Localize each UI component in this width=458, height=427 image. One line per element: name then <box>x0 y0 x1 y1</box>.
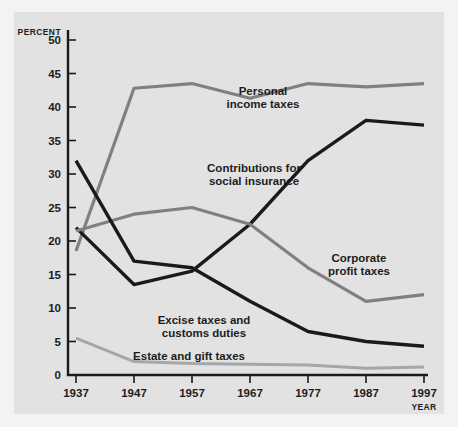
x-tick-label-1967: 1967 <box>237 387 263 399</box>
y-tick-label-30: 30 <box>48 168 61 180</box>
y-tick-label-20: 20 <box>48 235 61 247</box>
personal-income-taxes-label-line1: Personal <box>239 85 288 97</box>
x-tick-labels: 1937 1947 1957 1967 1977 1987 1997 <box>63 387 437 399</box>
y-tick-label-45: 45 <box>48 68 61 80</box>
x-tick-label-1937: 1937 <box>63 387 89 399</box>
y-tick-labels: 50 45 40 35 30 25 20 15 10 5 0 <box>48 34 61 381</box>
contributions-social-insurance-label-line1: Contributions for <box>207 162 301 174</box>
y-tick-label-50: 50 <box>48 34 61 46</box>
corporate-profit-taxes-label-line2: profit taxes <box>328 265 390 277</box>
estate-gift-label-line1: Estate and gift taxes <box>133 350 245 362</box>
x-tick-label-1977: 1977 <box>295 387 321 399</box>
excise-customs-label-line2: customs duties <box>162 327 246 339</box>
series-annotations: Personal income taxes Contributions for … <box>133 85 390 362</box>
y-tick-label-0: 0 <box>55 369 61 381</box>
contributions-social-insurance-label-line2: social insurance <box>209 175 299 187</box>
y-tick-label-5: 5 <box>55 336 62 348</box>
corporate-profit-taxes-label-line1: Corporate <box>332 252 387 264</box>
y-tick-label-15: 15 <box>48 269 61 281</box>
personal-income-taxes-label-line2: income taxes <box>227 98 300 110</box>
x-tick-label-1987: 1987 <box>353 387 379 399</box>
y-tick-label-25: 25 <box>48 202 61 214</box>
x-tick-label-1947: 1947 <box>121 387 147 399</box>
x-tick-label-1957: 1957 <box>179 387 205 399</box>
y-tick-label-40: 40 <box>48 101 61 113</box>
x-axis-title: YEAR <box>411 402 436 412</box>
chart-root: PERCENT 50 45 40 35 <box>0 0 458 427</box>
y-tick-label-35: 35 <box>48 135 61 147</box>
y-tick-label-10: 10 <box>48 302 61 314</box>
excise-customs-label-line1: Excise taxes and <box>158 314 251 326</box>
x-tick-label-1997: 1997 <box>411 387 437 399</box>
line-chart: PERCENT 50 45 40 35 <box>14 12 444 414</box>
plot-panel: PERCENT 50 45 40 35 <box>14 12 444 414</box>
